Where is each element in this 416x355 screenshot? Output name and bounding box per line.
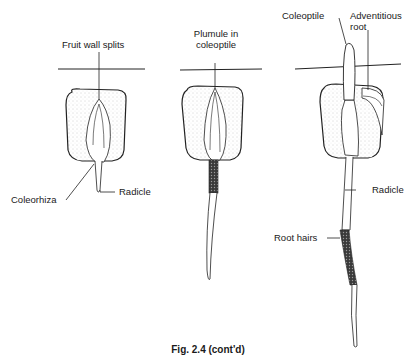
label-plumule-line2: coleoptile xyxy=(188,40,244,50)
label-adventitious-line1: Adventitious xyxy=(350,11,402,21)
seed-stage-2 xyxy=(180,63,262,280)
label-radicle-1: Radicle xyxy=(119,187,151,197)
label-radicle-3: Radicle xyxy=(372,185,404,195)
label-coleoptile: Coleoptile xyxy=(282,11,324,21)
label-coleorhiza: Coleorhiza xyxy=(11,195,56,205)
seed-stage-1 xyxy=(58,52,145,200)
figure-caption: Fig. 2.4 (cont'd) xyxy=(0,344,416,355)
label-root-hairs: Root hairs xyxy=(274,233,317,243)
label-adventitious-line2: root xyxy=(350,22,366,32)
label-fruit-wall-splits: Fruit wall splits xyxy=(62,40,124,50)
seed-stage-3 xyxy=(295,18,401,347)
label-plumule-line1: Plumule in xyxy=(188,29,244,39)
